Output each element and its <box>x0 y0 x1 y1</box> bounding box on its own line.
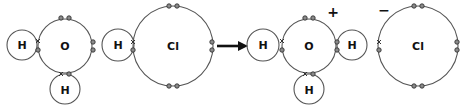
positive-charge: + <box>327 4 339 20</box>
water-o-label: O <box>60 40 69 53</box>
hcl-cl-label: Cl <box>167 40 179 53</box>
reaction-arrow <box>217 41 248 51</box>
water-h-bottom-label: H <box>60 84 69 97</box>
hydronium-h-bottom-label: H <box>304 84 313 97</box>
water-molecule: H O H <box>7 16 95 104</box>
hydronium-ion: H O H H + <box>247 4 367 104</box>
chloride-cl-label: Cl <box>412 40 424 53</box>
chloride-ion: Cl − <box>377 2 459 88</box>
reaction-diagram: H O H H Cl <box>0 0 464 112</box>
hydronium-h-left-label: H <box>258 39 267 52</box>
hydronium-h-right-label: H <box>347 39 356 52</box>
negative-charge: − <box>378 2 390 18</box>
hcl-molecule: H Cl <box>102 4 214 88</box>
water-h-left-label: H <box>17 39 26 52</box>
hcl-h-label: H <box>113 39 122 52</box>
hydronium-o-label: O <box>304 40 313 53</box>
cross-electron-icon <box>377 40 381 44</box>
